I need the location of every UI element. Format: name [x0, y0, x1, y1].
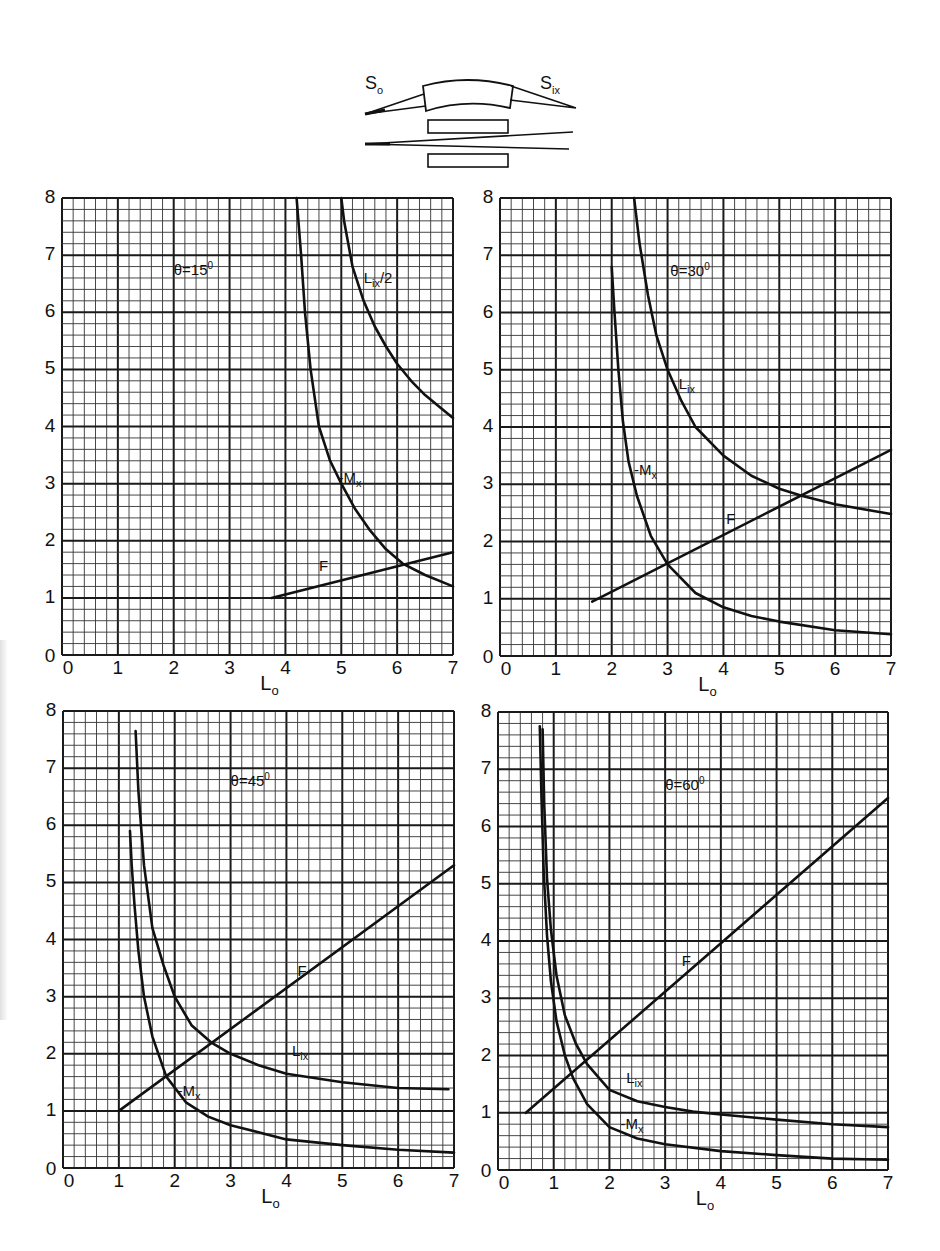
x-tick-label: 4 [281, 1171, 292, 1190]
x-tick-label: 5 [771, 1173, 782, 1192]
series-label-f: F [682, 953, 691, 968]
series-line-lix [136, 731, 449, 1089]
x-tick-label: 4 [718, 659, 729, 678]
x-tick-label: 0 [499, 1173, 510, 1192]
y-tick-label: 5 [483, 358, 494, 377]
x-tick-label: 5 [336, 658, 347, 677]
series-line-f [526, 798, 888, 1113]
y-tick-label: 8 [45, 187, 56, 206]
series-label-minus-mx: -Mx [178, 1083, 201, 1102]
series-label-lix: Lix [679, 376, 695, 395]
beam-schematic: So Six [355, 70, 585, 180]
x-tick-label: 5 [774, 659, 785, 678]
theta-annotation: θ=300 [670, 262, 709, 278]
x-tick-label: 1 [548, 1173, 559, 1192]
x-tick-label: 2 [168, 658, 179, 677]
y-tick-label: 1 [481, 1101, 492, 1120]
y-tick-label: 7 [481, 758, 492, 777]
series-line-minus-mx [540, 726, 888, 1159]
y-tick-label: 5 [46, 871, 57, 890]
x-tick-label: 3 [662, 659, 673, 678]
y-tick-label: 7 [45, 244, 56, 263]
series-line-minus-mx [130, 831, 454, 1153]
series-label-lix: Lix [626, 1070, 642, 1089]
x-tick-label: 1 [551, 659, 562, 678]
x-tick-label: 1 [113, 658, 124, 677]
x-tick-label: 7 [886, 659, 897, 678]
y-tick-label: 4 [45, 415, 56, 434]
x-tick-label: 3 [225, 1171, 236, 1190]
y-tick-label: 3 [481, 987, 492, 1006]
x-tick-label: 7 [449, 1171, 460, 1190]
y-tick-label: 3 [483, 473, 494, 492]
x-tick-label: 1 [114, 1171, 125, 1190]
x-tick-label: 2 [604, 1173, 615, 1192]
theta-annotation: θ=450 [231, 772, 270, 788]
y-tick-label: 4 [481, 930, 492, 949]
x-axis-title: Lo [260, 673, 278, 697]
y-tick-label: 6 [45, 301, 56, 320]
theta-annotation: θ=600 [665, 776, 704, 792]
series-label-minus-mx: -Mx [621, 1116, 644, 1135]
chart-theta-45: 01234567012345678Loθ=450-MxLixF [63, 711, 454, 1168]
y-tick-label: 8 [481, 701, 492, 720]
theta-annotation: θ=150 [174, 261, 213, 277]
x-tick-label: 2 [606, 659, 617, 678]
series-label-minus-mx: -Mx [634, 462, 657, 481]
y-tick-label: 6 [46, 814, 57, 833]
x-tick-label: 6 [830, 659, 841, 678]
y-tick-label: 6 [483, 301, 494, 320]
series-line-lix [543, 729, 888, 1127]
y-tick-label: 0 [481, 1161, 492, 1180]
x-tick-label: 2 [169, 1171, 180, 1190]
x-tick-label: 5 [337, 1171, 348, 1190]
chart-theta-30: 01234567012345678Loθ=300-MxLixF [500, 198, 891, 656]
x-axis-title: Lo [696, 1188, 714, 1212]
series-line-lix [634, 198, 891, 514]
x-tick-label: 0 [63, 658, 74, 677]
y-tick-label: 1 [46, 1099, 57, 1118]
y-tick-label: 1 [45, 586, 56, 605]
series-label-lix: Lix [292, 1043, 308, 1062]
x-tick-label: 7 [883, 1173, 894, 1192]
y-tick-label: 5 [481, 872, 492, 891]
x-tick-label: 3 [224, 658, 235, 677]
x-tick-label: 3 [660, 1173, 671, 1192]
x-tick-label: 6 [827, 1173, 838, 1192]
x-tick-label: 4 [280, 658, 291, 677]
series-label-minus-mx: -Mx [338, 470, 361, 489]
x-axis-title: Lo [261, 1186, 279, 1210]
y-tick-label: 7 [46, 757, 57, 776]
grid [62, 198, 453, 655]
schematic-label-source: So [365, 74, 383, 96]
y-tick-label: 3 [45, 472, 56, 491]
x-tick-label: 6 [392, 658, 403, 677]
series-label-lix: Lix/2 [364, 270, 393, 289]
scan-edge-shadow [0, 640, 8, 1020]
y-tick-label: 4 [46, 928, 57, 947]
chart-theta-60: 01234567012345678Loθ=600-MxLixF [498, 712, 888, 1170]
x-tick-label: 0 [64, 1171, 75, 1190]
x-tick-label: 4 [716, 1173, 727, 1192]
y-tick-label: 1 [483, 587, 494, 606]
y-tick-label: 0 [483, 647, 494, 666]
y-tick-label: 6 [481, 815, 492, 834]
y-tick-label: 7 [483, 244, 494, 263]
y-tick-label: 0 [45, 646, 56, 665]
series-label-f: F [319, 558, 328, 573]
y-tick-label: 2 [46, 1042, 57, 1061]
series-label-f: F [298, 963, 307, 978]
y-tick-label: 4 [483, 416, 494, 435]
series-label-f: F [726, 511, 735, 526]
y-tick-label: 8 [46, 700, 57, 719]
plot-area [62, 198, 453, 655]
y-tick-label: 3 [46, 985, 57, 1004]
y-tick-label: 0 [46, 1159, 57, 1178]
y-tick-label: 2 [481, 1044, 492, 1063]
y-tick-label: 8 [483, 187, 494, 206]
y-tick-label: 2 [483, 530, 494, 549]
x-tick-label: 6 [393, 1171, 404, 1190]
x-tick-label: 0 [501, 659, 512, 678]
x-axis-title: Lo [698, 674, 716, 698]
x-tick-label: 7 [448, 658, 459, 677]
